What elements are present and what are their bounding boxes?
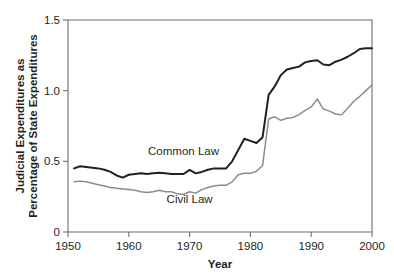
x-tick-label: 2000 bbox=[359, 240, 385, 252]
x-tick-label: 1980 bbox=[238, 240, 264, 252]
x-tick-label: 1990 bbox=[298, 240, 324, 252]
y-axis-title-line1: Judicial Expenditures as bbox=[14, 59, 26, 194]
y-tick-label: 1.5 bbox=[44, 14, 60, 26]
series-line-civil-law bbox=[74, 85, 372, 195]
x-tick-label: 1970 bbox=[177, 240, 203, 252]
chart-figure: 00.51.01.5195019601970198019902000YearJu… bbox=[0, 0, 394, 280]
x-tick-label: 1960 bbox=[116, 240, 142, 252]
series-line-common-law bbox=[74, 48, 372, 177]
y-axis-title-line2: Percentage of State Expenditures bbox=[27, 34, 39, 217]
x-axis-title: Year bbox=[208, 258, 233, 270]
y-tick-label: 1.0 bbox=[44, 85, 60, 97]
x-tick-label: 1950 bbox=[55, 240, 81, 252]
y-tick-label: 0.5 bbox=[44, 155, 60, 167]
series-label-civil-law: Civil Law bbox=[167, 193, 214, 205]
plot-frame bbox=[68, 20, 372, 232]
y-tick-label: 0 bbox=[54, 226, 60, 238]
line-chart: 00.51.01.5195019601970198019902000YearJu… bbox=[0, 0, 394, 280]
series-label-common-law: Common Law bbox=[148, 145, 220, 157]
